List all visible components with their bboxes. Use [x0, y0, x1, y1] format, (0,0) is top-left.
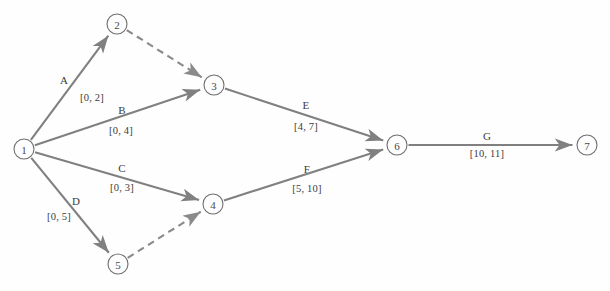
edge-label-name-C: C	[118, 162, 126, 174]
node-label-5: 5	[115, 259, 121, 271]
node-2[interactable]: 2	[107, 14, 127, 34]
node-label-7: 7	[584, 140, 590, 152]
node-5[interactable]: 5	[108, 254, 128, 274]
edge-label-interval-F: [5, 10]	[292, 183, 321, 194]
edge-label-interval-D: [0, 5]	[47, 211, 71, 222]
node-4[interactable]: 4	[203, 194, 223, 214]
node-label-4: 4	[210, 199, 216, 211]
edge-dummy-2-3	[127, 30, 202, 77]
edge-D	[31, 158, 109, 253]
edge-label-interval-B: [0, 4]	[109, 125, 133, 136]
edge-E	[225, 89, 383, 141]
node-label-2: 2	[114, 19, 120, 31]
node-label-1: 1	[21, 144, 27, 156]
edge-label-name-F: F	[304, 163, 310, 175]
edge-dummy-5-4	[128, 212, 201, 258]
edge-label-name-G: G	[483, 130, 491, 142]
edge-label-name-B: B	[118, 104, 126, 116]
edge-label-interval-A: [0, 2]	[80, 92, 104, 103]
node-label-6: 6	[394, 140, 400, 152]
edge-B	[35, 90, 200, 146]
node-1[interactable]: 1	[14, 139, 34, 159]
edge-label-interval-G: [10, 11]	[470, 148, 504, 159]
network-diagram-canvas: 1234567 A[0, 2]B[0, 4]C[0, 3]D[0, 5]E[4,…	[0, 0, 610, 291]
edge-label-name-A: A	[60, 74, 68, 86]
node-label-3: 3	[211, 80, 217, 92]
edge-layer	[31, 30, 573, 258]
edge-label-name-D: D	[72, 195, 80, 207]
network-graph-svg: 1234567	[0, 0, 610, 291]
edge-label-interval-E: [4, 7]	[294, 121, 318, 132]
node-6[interactable]: 6	[387, 135, 407, 155]
edge-label-name-E: E	[303, 99, 310, 111]
node-3[interactable]: 3	[204, 75, 224, 95]
node-7[interactable]: 7	[577, 135, 597, 155]
edge-label-interval-C: [0, 3]	[110, 182, 134, 193]
